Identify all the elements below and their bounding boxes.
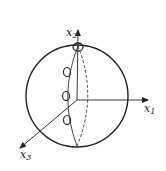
x1-label: x1 bbox=[144, 102, 155, 116]
x3-label: x3 bbox=[20, 148, 31, 162]
meridian-back bbox=[77, 46, 88, 146]
marker-1 bbox=[64, 68, 71, 77]
x2-axis bbox=[77, 30, 78, 100]
sphere-diagram: x2 x1 x3 bbox=[0, 0, 166, 171]
diagram-canvas: x2 x1 x3 bbox=[0, 0, 166, 171]
marker-2 bbox=[63, 92, 70, 101]
x2-label: x2 bbox=[66, 26, 77, 40]
